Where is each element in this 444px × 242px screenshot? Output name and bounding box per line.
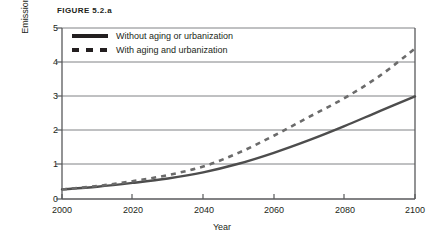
- axis-lines: [62, 28, 415, 199]
- gridlines: [62, 28, 415, 164]
- chart-plot: [0, 0, 444, 242]
- y-axis-ticks: [56, 28, 62, 199]
- series-line-without-aging: [62, 96, 415, 189]
- figure-container: FIGURE 5.2.a Emissions (GtC/yr) 5 4 3 2 …: [0, 0, 444, 242]
- x-axis-ticks: [62, 194, 415, 199]
